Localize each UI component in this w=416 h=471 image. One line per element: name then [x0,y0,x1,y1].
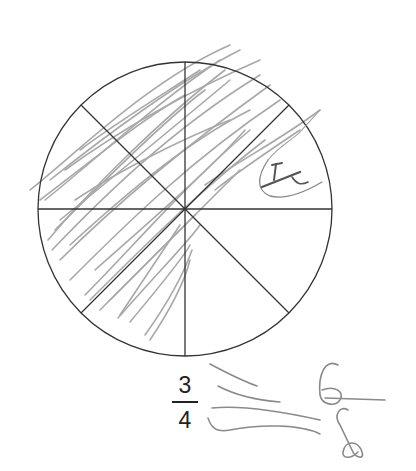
pencil-shading [30,45,320,340]
handwritten-segment-mark [260,110,322,197]
printed-fraction: 3 4 [172,372,198,433]
fraction-denominator: 4 [172,407,198,433]
pie-outline [38,62,332,356]
fraction-worksheet: 3 4 [0,0,416,471]
fraction-numerator: 3 [172,372,198,398]
pie-drawing [0,0,416,471]
handwritten-equals [208,364,320,434]
fraction-bar [172,401,198,403]
handwritten-fraction-6-8 [320,363,385,457]
